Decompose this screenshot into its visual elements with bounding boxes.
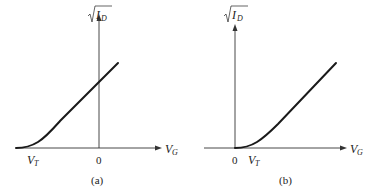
x-axis-arrow-a <box>155 146 162 151</box>
origin-label-b: 0 <box>232 154 238 166</box>
svg-text:G: G <box>172 148 178 157</box>
id-sub-a: D <box>100 14 107 23</box>
x-axis-arrow-b <box>340 146 347 151</box>
y-axis-label-b: I D <box>224 6 248 23</box>
caption-b: (b) <box>279 174 292 187</box>
x-axis-label-b: V G <box>350 142 363 157</box>
x-axis-label-a: V G <box>165 142 178 157</box>
origin-label-a: 0 <box>96 154 102 166</box>
y-axis-arrow-b <box>233 24 238 31</box>
sqrt-id-curve-a <box>16 63 118 148</box>
threshold-label-b: V T <box>248 153 260 168</box>
panel-a: I D V G V T 0 (a) <box>16 6 178 187</box>
svg-text:G: G <box>357 148 363 157</box>
sqrt-id-curve-b <box>235 63 336 148</box>
threshold-label-a: V T <box>27 153 39 168</box>
svg-text:T: T <box>34 159 39 168</box>
diagram-canvas: I D V G V T 0 (a) I D V G 0 V <box>0 0 378 194</box>
id-sub-b: D <box>236 14 243 23</box>
caption-a: (a) <box>91 174 104 187</box>
sqrt-symbol-b <box>224 6 248 22</box>
svg-text:T: T <box>255 159 260 168</box>
panel-b: I D V G 0 V T (b) <box>204 6 363 187</box>
